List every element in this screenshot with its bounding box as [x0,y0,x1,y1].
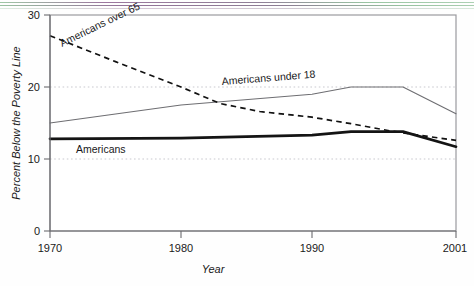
x-axis-title: Year [202,263,226,275]
y-axis-title: Percent Below the Poverty Line [10,46,22,199]
x-tick-label-2001: 2001 [443,242,467,254]
plot-area-background [50,15,456,231]
x-tick-label-1970: 1970 [38,242,62,254]
y-tick-label-30: 30 [28,9,40,21]
x-tick-label-1990: 1990 [300,242,324,254]
x-tick-label-1980: 1980 [169,242,193,254]
chart-svg: 30 20 10 0 Percent Below the Poverty Lin… [0,0,474,286]
y-axis: 30 20 10 0 Percent Below the Poverty Lin… [10,9,50,237]
y-tick-label-0: 0 [34,225,40,237]
y-tick-label-10: 10 [28,153,40,165]
y-tick-label-20: 20 [28,81,40,93]
series-label-americans: Americans [76,143,126,155]
x-axis: 1970 1980 1990 2001 Year [38,231,467,275]
poverty-line-chart-figure: · · · 30 20 10 0 Percent Below th [0,0,474,286]
